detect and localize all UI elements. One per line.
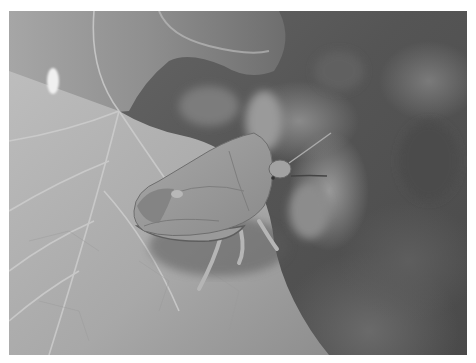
bug-head — [269, 160, 291, 178]
bug-antennae — [289, 133, 331, 176]
scene — [9, 11, 467, 355]
photo — [9, 11, 467, 355]
highlight-spot — [47, 68, 59, 94]
bug-eye — [271, 176, 275, 180]
